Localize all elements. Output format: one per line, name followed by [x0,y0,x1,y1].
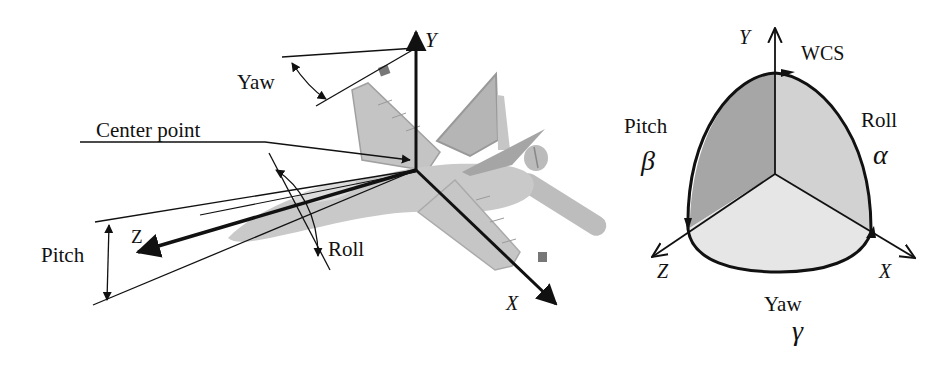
right-x-axis-label: X [878,260,892,282]
yaw-label: Yaw [237,70,275,94]
roll-label: Roll [328,237,364,261]
wcs-label: WCS [801,42,844,64]
right-yaw-label: Yaw [764,292,802,316]
right-pitch-label: Pitch [624,114,668,138]
diagram-canvas: Y X Z Yaw Center point Pitch Roll Y WCS … [0,0,952,369]
airplane-illustration [228,65,610,270]
plane-upper-wing [352,83,440,170]
pitch-beta-symbol: β [640,145,655,176]
pitch-arrow [107,225,109,300]
left-z-axis-label: Z [131,226,143,247]
yaw-arc [292,63,326,99]
wingtip-missile-lower [538,252,547,262]
left-y-axis-label: Y [425,28,439,52]
plane-vertical-tail-2 [497,95,510,150]
left-x-axis-label: X [505,292,519,314]
pitch-label: Pitch [41,243,85,267]
right-roll-label: Roll [861,108,897,132]
yaw-gamma-symbol: γ [792,315,804,346]
roll-alpha-symbol: α [873,139,889,170]
plane-vertical-tail-1 [437,74,498,156]
center-point-label: Center point [96,118,201,142]
right-y-axis-label: Y [739,26,752,48]
right-z-axis-label: Z [657,260,669,282]
